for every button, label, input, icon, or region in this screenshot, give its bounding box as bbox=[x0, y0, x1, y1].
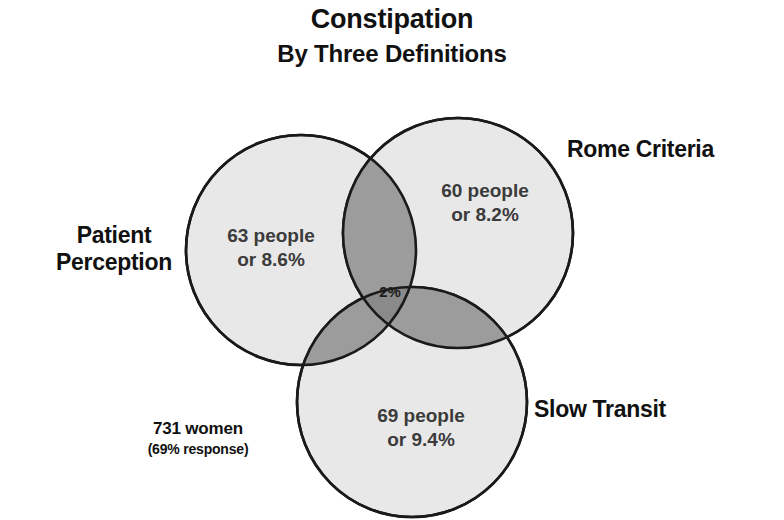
sample-size-footnote: 731 women (69% response) bbox=[98, 419, 298, 457]
set-label-rome-criteria: Rome Criteria bbox=[567, 136, 777, 163]
set-label-patient-perception: Patient Perception bbox=[34, 222, 194, 275]
region-label-rome-only: 60 people or 8.2% bbox=[405, 179, 565, 227]
region-label-patient-only: 63 people or 8.6% bbox=[192, 224, 350, 272]
region-label-triple-overlap: 2% bbox=[360, 283, 420, 302]
footnote-population: 731 women bbox=[98, 419, 298, 439]
footnote-response-rate: (69% response) bbox=[98, 441, 298, 457]
set-label-slow-transit: Slow Transit bbox=[534, 396, 764, 423]
venn-diagram-figure: Constipation By Three Definitions bbox=[0, 0, 784, 520]
region-label-transit-only: 69 people or 9.4% bbox=[338, 404, 504, 452]
